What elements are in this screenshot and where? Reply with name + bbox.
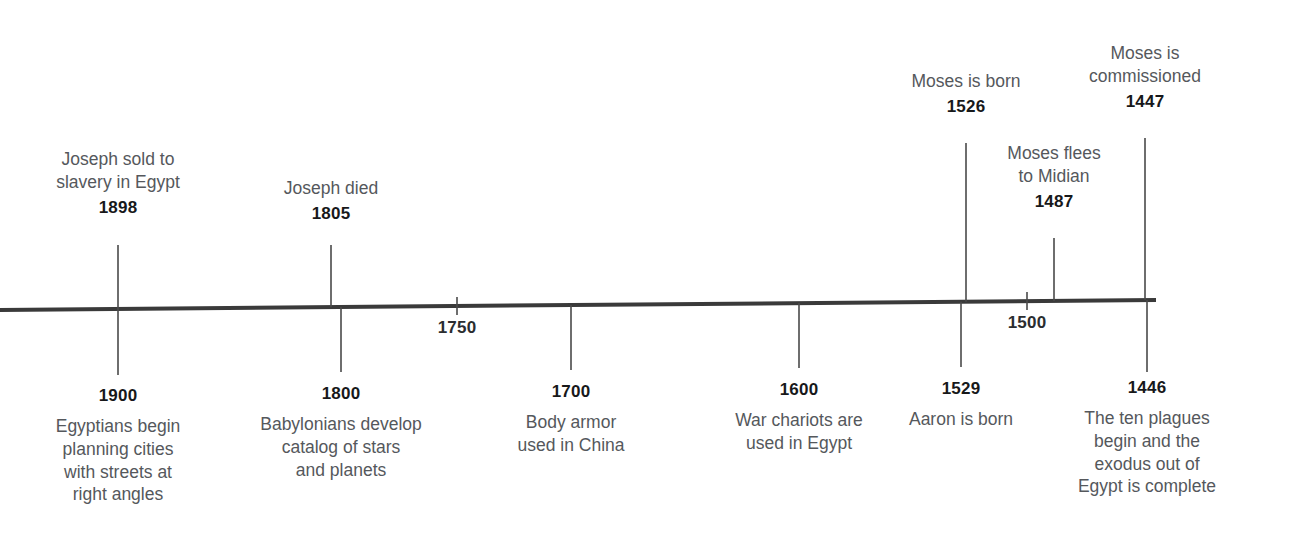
timeline-event-above[interactable]: Moses flees to Midian1487 — [924, 142, 1184, 213]
event-description: The ten plagues begin and the exodus out… — [1017, 407, 1277, 498]
timeline-event-below[interactable]: 1446The ten plagues begin and the exodus… — [1017, 377, 1277, 498]
timeline-event-below[interactable]: 1800Babylonians develop catalog of stars… — [211, 383, 471, 481]
event-year: 1805 — [201, 203, 461, 225]
timeline-event-above[interactable]: Joseph died1805 — [201, 177, 461, 225]
event-year: 1800 — [211, 383, 471, 405]
event-description: Body armor used in China — [441, 411, 701, 457]
timeline-event-above[interactable]: Moses is commissioned1447 — [1015, 42, 1275, 113]
event-year: 1447 — [1015, 91, 1275, 113]
axis-tick-label: 1500 — [987, 313, 1067, 333]
timeline-axis-line — [0, 300, 1156, 310]
event-description: Moses flees to Midian — [924, 142, 1184, 188]
event-year: 1446 — [1017, 377, 1277, 399]
timeline-event-below[interactable]: 1700Body armor used in China — [441, 381, 701, 457]
event-year: 1700 — [441, 381, 701, 403]
event-year: 1487 — [924, 191, 1184, 213]
event-description: Moses is commissioned — [1015, 42, 1275, 88]
event-description: Babylonians develop catalog of stars and… — [211, 413, 471, 481]
timeline-figure: 17501500Joseph sold to slavery in Egypt1… — [0, 0, 1298, 558]
event-description: Joseph died — [201, 177, 461, 200]
axis-tick-label: 1750 — [417, 318, 497, 338]
